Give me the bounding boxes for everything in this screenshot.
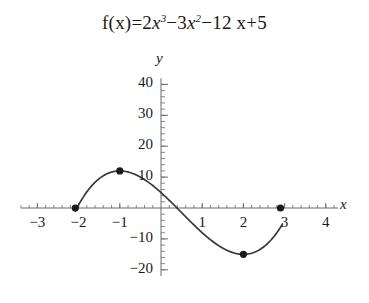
y-tick-label: 20 [119,136,153,153]
major-ticks [37,84,325,269]
x-tick-label: 2 [226,214,260,231]
y-tick-label: 30 [119,105,153,122]
function-curve [75,171,282,254]
data-point-markers [72,167,284,258]
y-tick-label: 10 [119,167,153,184]
x-tick-label: 3 [268,214,302,231]
marker-root-left [72,204,79,211]
x-axis-label: x [340,196,347,213]
x-tick-label: −2 [62,214,96,231]
y-tick-label: −20 [119,260,153,277]
plot-area [0,0,369,303]
minor-ticks [21,84,334,269]
y-axis-label: y [156,50,163,67]
figure-container: f(x)=2x3−3x2−12 x+5 y x −3−2−11234 40302… [0,0,369,303]
marker-local-minimum [240,251,247,258]
marker-root-right [277,204,284,211]
y-tick-label: −10 [119,229,153,246]
x-tick-label: 4 [309,214,343,231]
x-tick-label: 1 [185,214,219,231]
x-tick-label: −3 [20,214,54,231]
chart-svg [0,0,369,303]
y-tick-label: 40 [119,74,153,91]
